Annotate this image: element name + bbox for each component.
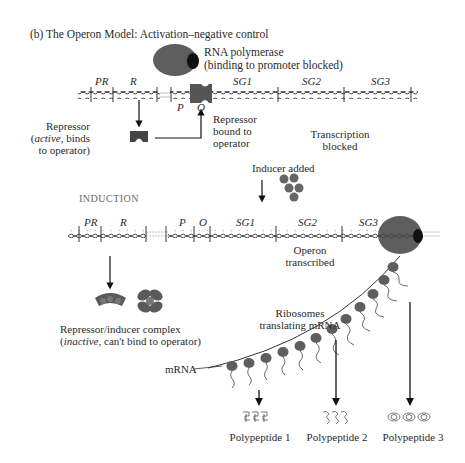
inducer-added-label: Inducer added	[252, 162, 315, 174]
gene-label-sg3-top: SG3	[371, 75, 390, 87]
transcription-blocked-line1: Transcription	[300, 128, 380, 140]
repressor-active-line2: (active, binds	[10, 132, 90, 144]
repressor-active-shape	[130, 131, 148, 142]
gene-label-sg1-bottom: SG1	[236, 216, 255, 228]
polypeptide-1-label: Polypeptide 1	[220, 431, 300, 443]
repressor-active-line1: Repressor	[20, 120, 90, 132]
gene-label-sg2-bottom: SG2	[298, 216, 317, 228]
operator-label-bottom: O	[199, 216, 207, 228]
polypeptide-1-icons	[243, 412, 268, 422]
gene-label-pr-top: PR	[95, 75, 108, 87]
rna-polymerase-sublabel: (binding to promoter blocked)	[204, 59, 343, 71]
repressor-bound-line2: bound to	[213, 125, 252, 137]
repressor-inducer-complex	[95, 287, 165, 315]
gene-label-r-top: R	[130, 75, 137, 87]
gene-label-sg3-bottom: SG3	[359, 216, 378, 228]
induction-heading: INDUCTION	[79, 193, 139, 205]
gene-label-r-bottom: R	[120, 216, 127, 228]
polypeptide-2-label: Polypeptide 2	[297, 431, 377, 443]
complex-line1: Repressor/inducer complex	[60, 323, 181, 335]
repressor-active-line3: to operator)	[10, 144, 90, 156]
complex-line2: (inactive, can't bind to operator)	[60, 335, 201, 347]
repressor-bound-line1: Repressor	[213, 113, 257, 125]
rna-polymerase-top	[153, 44, 199, 76]
operon-transcribed-line1: Operon	[270, 244, 350, 256]
gene-label-pr-bottom: PR	[84, 216, 97, 228]
rna-polymerase-bottom	[378, 216, 423, 254]
operator-label-top: O	[197, 101, 205, 113]
polypeptide-3-icons	[388, 413, 430, 421]
top-dna-strand	[78, 87, 418, 102]
ribosomes-line2: translating mRNA	[245, 319, 355, 331]
polypeptide-2-icons	[323, 411, 347, 424]
transcription-blocked-line2: blocked	[300, 140, 380, 152]
operon-transcribed-line2: transcribed	[270, 256, 350, 268]
gene-label-sg2-top: SG2	[302, 75, 321, 87]
rna-polymerase-label: RNA polymerase	[204, 46, 284, 58]
inducer-molecules	[280, 174, 304, 202]
gene-label-sg1-top: SG1	[233, 75, 252, 87]
promoter-label-top: P	[177, 101, 184, 113]
mrna-label: mRNA	[165, 363, 197, 375]
repressor-bound-line3: operator	[213, 137, 250, 149]
polypeptide-3-label: Polypeptide 3	[373, 431, 453, 443]
ribosomes-line1: Ribosomes	[255, 307, 345, 319]
promoter-label-bottom: P	[179, 216, 186, 228]
